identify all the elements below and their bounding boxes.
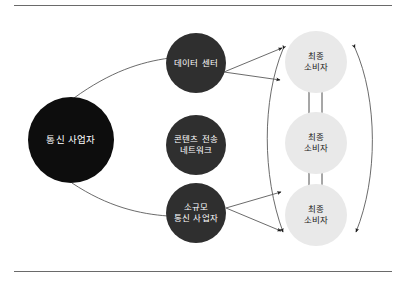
edge-provider-to-small-operator	[72, 183, 168, 216]
node-label-line: 데이터 센터	[174, 58, 218, 69]
node-label-line: 최종	[308, 51, 324, 62]
node-label-line: 최종	[308, 204, 324, 215]
node-content-delivery-network[interactable]: 콘텐츠 전송 네트워크	[166, 115, 226, 175]
edge-data-center-to-consumer-upper	[224, 48, 282, 72]
node-label-line: 최종	[308, 132, 324, 143]
edge-consumer-outer-arc	[355, 48, 372, 232]
edge-small-operator-to-consumer-lower	[226, 208, 281, 231]
node-label-line: 네트워크	[180, 145, 213, 156]
edge-provider-to-data-center	[74, 58, 170, 98]
node-end-consumer-3[interactable]: 최종 소비자	[285, 184, 347, 246]
node-end-consumer-1[interactable]: 최종 소비자	[285, 31, 347, 93]
node-label-line: 콘텐츠 전송	[174, 134, 218, 145]
diagram-figure: 통신 사업자 데이터 센터 콘텐츠 전송 네트워크 소규모 통신 사업자 최종 …	[0, 0, 404, 284]
node-label-line: 소비자	[304, 62, 329, 73]
edge-consumer-inner-arc	[267, 49, 283, 232]
edge-data-center-to-consumer-lower	[224, 72, 280, 80]
node-label-line: 통신 사업자	[174, 213, 218, 224]
node-small-telecom-operator[interactable]: 소규모 통신 사업자	[166, 183, 226, 243]
node-telecom-operator[interactable]: 통신 사업자	[28, 97, 114, 183]
node-label-line: 소규모	[184, 202, 209, 213]
node-label-line: 소비자	[304, 215, 329, 226]
node-end-consumer-2[interactable]: 최종 소비자	[285, 112, 347, 174]
node-data-center[interactable]: 데이터 센터	[166, 33, 226, 93]
node-label-line: 통신 사업자	[46, 134, 95, 146]
node-label-line: 소비자	[304, 143, 329, 154]
